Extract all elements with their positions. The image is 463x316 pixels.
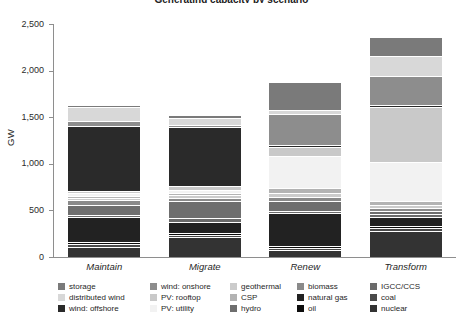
chart-title: Generating capacity by scenario <box>0 0 463 3</box>
bar-migrate[interactable] <box>169 115 241 257</box>
bar-segment <box>370 231 442 257</box>
bar-segment <box>169 201 241 218</box>
legend-item-pv-rooftop[interactable]: PV: rooftop <box>150 292 230 303</box>
bar-segment <box>370 76 442 105</box>
y-axis-tick-mark <box>49 257 54 258</box>
bar-segment <box>68 205 140 215</box>
bar-segment <box>370 37 442 57</box>
chart-legend: storagedistributed windwind: offshorewin… <box>58 281 458 314</box>
legend-column: biomassnatural gasoil <box>297 281 370 314</box>
bar-segment <box>370 162 442 201</box>
bar-segment <box>169 118 241 125</box>
bar-segment <box>269 82 341 110</box>
bar-segment <box>68 247 140 257</box>
legend-swatch-icon <box>58 294 65 301</box>
legend-swatch-icon <box>150 305 157 312</box>
legend-swatch-icon <box>150 283 157 290</box>
bar-segment <box>269 156 341 188</box>
legend-item-pv-utility[interactable]: PV: utility <box>150 303 230 314</box>
legend-swatch-icon <box>297 294 304 301</box>
legend-swatch-icon <box>230 305 237 312</box>
legend-label: natural gas <box>308 293 348 302</box>
legend-swatch-icon <box>297 305 304 312</box>
legend-label: biomass <box>308 282 338 291</box>
legend-swatch-icon <box>370 294 377 301</box>
plot-area <box>54 24 456 257</box>
y-axis-tick-label: 2,000 <box>0 66 44 75</box>
legend-item-csp[interactable]: CSP <box>230 292 297 303</box>
legend-label: wind: onshore <box>161 282 211 291</box>
bar-segment <box>269 250 341 257</box>
bar-renew[interactable] <box>269 82 341 257</box>
legend-swatch-icon <box>230 294 237 301</box>
bar-segment <box>370 56 442 75</box>
x-axis-label-migrate: Migrate <box>150 261 260 272</box>
legend-item-natural-gas[interactable]: natural gas <box>297 292 370 303</box>
legend-label: CSP <box>241 293 257 302</box>
legend-item-biomass[interactable]: biomass <box>297 281 370 292</box>
x-axis-label-maintain: Maintain <box>49 261 159 272</box>
y-axis-tick-label: 0 <box>0 253 44 262</box>
bar-segment <box>68 126 140 191</box>
legend-label: coal <box>381 293 396 302</box>
legend-label: geothermal <box>241 282 281 291</box>
legend-label: hydro <box>241 304 261 313</box>
legend-item-coal[interactable]: coal <box>370 292 444 303</box>
bar-segment <box>169 222 241 233</box>
legend-column: wind: onshorePV: rooftopPV: utility <box>150 281 230 314</box>
bar-segment <box>68 107 140 121</box>
legend-item-wind-onshore[interactable]: wind: onshore <box>150 281 230 292</box>
bar-segment <box>269 147 341 156</box>
bar-segment <box>370 107 442 162</box>
legend-swatch-icon <box>150 294 157 301</box>
legend-item-storage[interactable]: storage <box>58 281 150 292</box>
x-axis-label-transform: Transform <box>351 261 461 272</box>
bar-maintain[interactable] <box>68 105 140 257</box>
legend-label: IGCC/CCS <box>381 282 420 291</box>
legend-label: PV: rooftop <box>161 293 201 302</box>
y-axis-tick-label: 1,000 <box>0 159 44 168</box>
legend-swatch-icon <box>58 305 65 312</box>
legend-swatch-icon <box>370 305 377 312</box>
bar-segment <box>269 114 341 145</box>
legend-label: wind: offshore <box>69 304 119 313</box>
legend-label: distributed wind <box>69 293 125 302</box>
legend-swatch-icon <box>230 283 237 290</box>
legend-item-geothermal[interactable]: geothermal <box>230 281 297 292</box>
x-axis-label-renew: Renew <box>250 261 360 272</box>
bar-segment <box>68 217 140 242</box>
legend-item-hydro[interactable]: hydro <box>230 303 297 314</box>
bar-segment <box>269 201 341 210</box>
bar-transform[interactable] <box>370 37 442 257</box>
bar-segment <box>269 213 341 245</box>
y-axis-tick-label: 2,500 <box>0 20 44 29</box>
legend-swatch-icon <box>297 283 304 290</box>
bar-segment <box>169 127 241 186</box>
bar-segment <box>169 237 241 257</box>
legend-column: geothermalCSPhydro <box>230 281 297 314</box>
legend-swatch-icon <box>58 283 65 290</box>
legend-column: IGCC/CCScoalnuclear <box>370 281 444 314</box>
bar-segment <box>370 217 442 226</box>
x-axis-line <box>53 257 456 258</box>
legend-item-wind-offshore[interactable]: wind: offshore <box>58 303 150 314</box>
legend-label: PV: utility <box>161 304 194 313</box>
legend-item-nuclear[interactable]: nuclear <box>370 303 444 314</box>
legend-item-distributed-wind[interactable]: distributed wind <box>58 292 150 303</box>
legend-item-igcc-ccs[interactable]: IGCC/CCS <box>370 281 444 292</box>
legend-label: oil <box>308 304 316 313</box>
legend-column: storagedistributed windwind: offshore <box>58 281 150 314</box>
legend-item-oil[interactable]: oil <box>297 303 370 314</box>
legend-swatch-icon <box>370 283 377 290</box>
y-axis-tick-label: 1,500 <box>0 113 44 122</box>
legend-label: nuclear <box>381 304 407 313</box>
y-axis-tick-label: 500 <box>0 206 44 215</box>
legend-label: storage <box>69 282 96 291</box>
y-axis-title: GW <box>5 118 16 158</box>
